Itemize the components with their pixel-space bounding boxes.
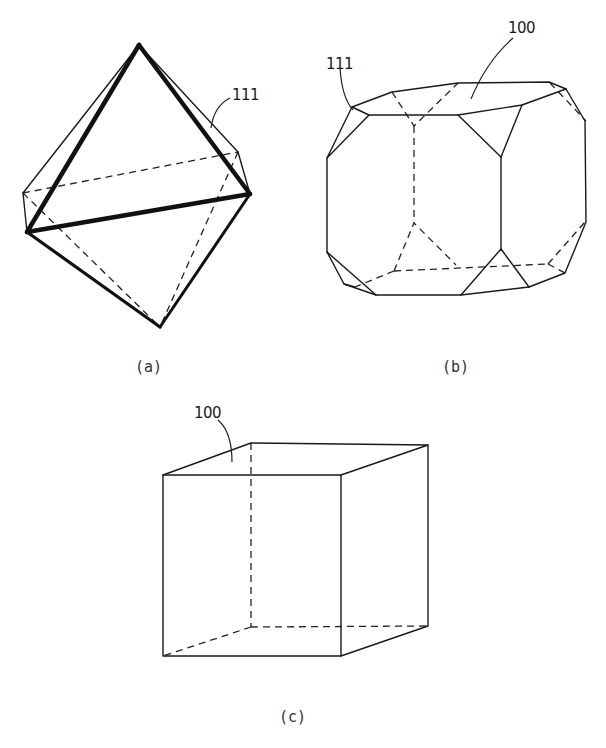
ref-label-100: 100	[508, 19, 535, 37]
edge	[327, 252, 529, 295]
hidden-edge	[392, 83, 458, 126]
right-face	[341, 445, 428, 656]
crystal-habit-diagram: 111 (a) 111 100 (b)	[0, 0, 606, 748]
figure-caption-b: (b)	[442, 358, 469, 376]
leader-line	[211, 98, 230, 128]
front-edge	[139, 45, 250, 194]
front-edge	[27, 45, 139, 232]
hidden-edge	[394, 223, 456, 271]
figure-b-truncated-cube: 111 100 (b)	[326, 19, 586, 376]
hidden-edge	[355, 271, 394, 287]
leader-line	[218, 420, 232, 462]
hidden-edge	[163, 627, 251, 656]
edge	[139, 45, 238, 152]
leader-line	[340, 68, 353, 110]
front-edge	[160, 194, 250, 327]
edge	[529, 89, 586, 287]
edge	[327, 107, 369, 158]
front-edge	[27, 194, 250, 232]
figure-c-cube: 100 (c)	[163, 404, 428, 726]
edge	[23, 193, 27, 232]
hidden-edge	[548, 222, 585, 264]
edge	[23, 45, 139, 193]
hidden-edge	[548, 264, 565, 273]
edge	[369, 89, 566, 115]
hidden-edge	[550, 83, 586, 121]
ref-label-111: 111	[326, 55, 353, 73]
hidden-edge	[160, 152, 238, 327]
top-face	[163, 443, 428, 475]
leader-line	[471, 38, 513, 99]
front-face	[163, 475, 341, 656]
ref-label-100: 100	[194, 404, 221, 422]
hidden-edge	[251, 626, 428, 627]
front-edge	[27, 232, 160, 327]
edge	[352, 82, 566, 107]
figure-caption-a: (a)	[135, 358, 162, 376]
ref-label-111: 111	[232, 86, 259, 104]
edge	[327, 252, 376, 295]
hidden-edge	[394, 264, 548, 271]
figure-a-octahedron: 111 (a)	[23, 45, 259, 376]
figure-caption-c: (c)	[279, 708, 306, 726]
